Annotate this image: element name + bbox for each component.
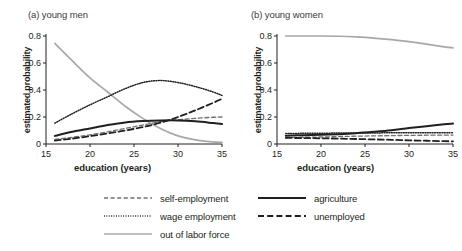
legend-item-agriculture[interactable]: agriculture [258, 190, 365, 206]
panel-a-xlabel: education (years) [74, 162, 151, 173]
chart-panel-b: (b) young women estimated probability 00… [231, 0, 462, 188]
legend-line-swatch-icon [104, 210, 152, 222]
panel-a-plot: 00.20.40.60.81520253035 [0, 0, 231, 188]
legend-line-swatch-icon [104, 228, 152, 240]
svg-text:20: 20 [85, 149, 95, 159]
legend-item-label: unemployed [314, 211, 365, 222]
svg-text:30: 30 [404, 149, 414, 159]
svg-text:0: 0 [36, 139, 41, 149]
legend-item-self-employment[interactable]: self-employment [104, 190, 236, 206]
svg-text:0: 0 [267, 139, 272, 149]
legend-line-swatch-icon [104, 192, 152, 204]
series-line-out-of-labor-force [286, 36, 453, 48]
figure: (a) young men estimated probability 00.2… [0, 0, 462, 251]
svg-text:25: 25 [129, 149, 139, 159]
legend-item-label: self-employment [160, 193, 228, 204]
svg-text:25: 25 [360, 149, 370, 159]
svg-text:0.6: 0.6 [259, 58, 272, 68]
svg-text:30: 30 [173, 149, 183, 159]
svg-text:15: 15 [272, 149, 282, 159]
legend-line-swatch-icon [258, 192, 306, 204]
series-line-unemployed [286, 138, 453, 141]
chart-panel-a: (a) young men estimated probability 00.2… [0, 0, 231, 188]
svg-text:0.8: 0.8 [259, 31, 272, 41]
legend-item-out-of-labor-force[interactable]: out of labor force [104, 226, 236, 242]
svg-text:0.2: 0.2 [259, 112, 272, 122]
svg-text:0.8: 0.8 [28, 31, 41, 41]
panel-b-xlabel: education (years) [297, 162, 374, 173]
legend-column-right: agricultureunemployed [258, 190, 365, 226]
legend-item-label: wage employment [160, 211, 236, 222]
legend-item-wage-employment[interactable]: wage employment [104, 208, 236, 224]
panel-b-plot: 00.20.40.60.81520253035 [231, 0, 462, 188]
svg-text:35: 35 [448, 149, 458, 159]
svg-text:35: 35 [217, 149, 227, 159]
series-line-wage-employment [55, 81, 222, 124]
svg-text:20: 20 [316, 149, 326, 159]
svg-text:0.4: 0.4 [259, 85, 272, 95]
svg-text:0.2: 0.2 [28, 112, 41, 122]
legend-item-unemployed[interactable]: unemployed [258, 208, 365, 224]
svg-text:15: 15 [41, 149, 51, 159]
legend-column-left: self-employmentwage employmentout of lab… [104, 190, 236, 244]
svg-text:0.4: 0.4 [28, 85, 41, 95]
chart-legend: self-employmentwage employmentout of lab… [0, 188, 462, 251]
series-line-unemployed [55, 99, 222, 141]
legend-line-swatch-icon [258, 210, 306, 222]
legend-item-label: agriculture [314, 193, 357, 204]
svg-text:0.6: 0.6 [28, 58, 41, 68]
legend-item-label: out of labor force [160, 229, 230, 240]
